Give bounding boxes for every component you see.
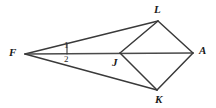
- vertex-label-L: L: [154, 4, 161, 15]
- segment-L-A: [158, 21, 193, 53]
- vertex-label-F: F: [9, 47, 16, 58]
- vertex-label-A: A: [199, 45, 206, 56]
- geometry-figure: F L J A K 1 2: [0, 0, 216, 108]
- angle-label-1: 1: [64, 41, 69, 50]
- segment-F-A: [25, 53, 193, 54]
- vertex-label-K: K: [155, 94, 162, 105]
- segment-group: [25, 21, 193, 90]
- vertex-label-J: J: [112, 57, 118, 68]
- geometry-diagram-canvas: [0, 0, 216, 108]
- segment-F-K: [25, 54, 157, 90]
- segment-K-A: [157, 53, 193, 90]
- angle-label-2: 2: [64, 55, 69, 64]
